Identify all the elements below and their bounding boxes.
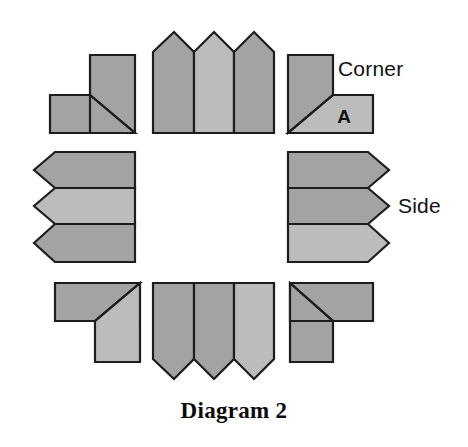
- right-side-1-piece[interactable]: [288, 152, 389, 188]
- piece-a-letter: A: [337, 106, 351, 127]
- top-side-3-piece[interactable]: [234, 32, 274, 133]
- group-bottom-right-corner[interactable]: [290, 283, 373, 362]
- left-side-3-piece[interactable]: [34, 224, 135, 262]
- right-side-2-piece[interactable]: [288, 188, 389, 224]
- group-top-side[interactable]: [153, 32, 274, 133]
- right-side-3-piece[interactable]: [288, 224, 389, 262]
- diagram-container: A C: [0, 0, 468, 447]
- corner-label: Corner: [338, 57, 403, 81]
- bottom-side-2-piece[interactable]: [194, 283, 234, 379]
- side-label: Side: [398, 194, 441, 218]
- group-bottom-left-corner[interactable]: [55, 283, 140, 362]
- left-side-1-piece[interactable]: [34, 152, 135, 188]
- bottom-side-3-piece[interactable]: [234, 283, 274, 379]
- group-right-side[interactable]: [288, 152, 389, 262]
- top-side-2-piece[interactable]: [194, 32, 234, 133]
- group-top-left-corner[interactable]: [50, 55, 135, 133]
- group-bottom-side[interactable]: [153, 283, 274, 379]
- group-left-side[interactable]: [34, 152, 135, 262]
- diagram-caption: Diagram 2: [0, 398, 468, 424]
- bottom-side-1-piece[interactable]: [153, 283, 194, 379]
- top-side-1-piece[interactable]: [153, 32, 194, 133]
- left-side-2-piece[interactable]: [34, 188, 135, 224]
